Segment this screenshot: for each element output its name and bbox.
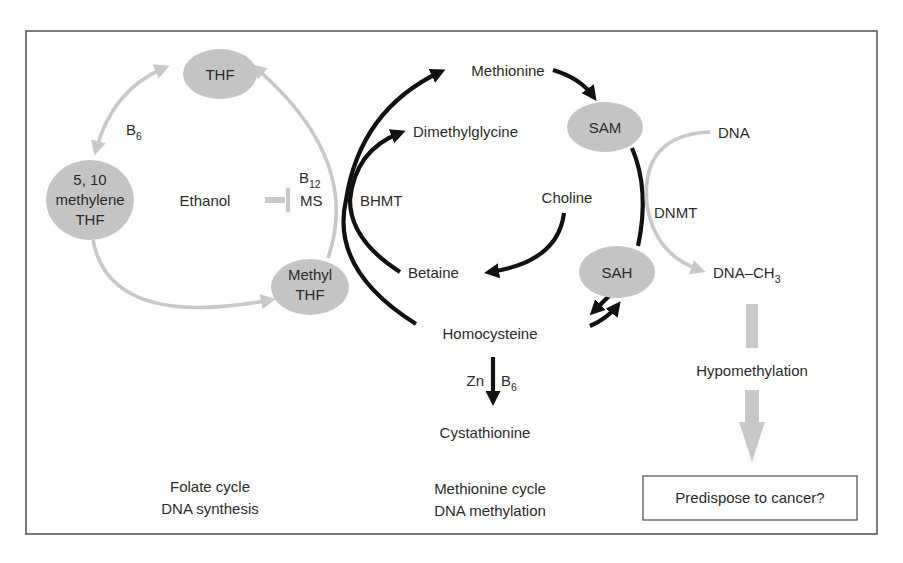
- svg-text:SAM: SAM: [589, 119, 622, 136]
- enzyme-bhmt: BHMT: [360, 192, 403, 209]
- methionine-caption-line1: Methionine cycle: [434, 480, 546, 497]
- svg-text:Predispose to cancer?: Predispose to cancer?: [675, 489, 824, 506]
- node-methylene-thf: 5, 10 methylene THF: [46, 160, 134, 240]
- label-hypomethylation: Hypomethylation: [696, 362, 808, 379]
- cofactor-b6-methionine: B6: [501, 372, 517, 393]
- methionine-to-sam-arrow-icon: [553, 70, 593, 96]
- svg-text:methylene: methylene: [55, 191, 124, 208]
- cofactor-b6-folate: B6: [126, 121, 142, 142]
- svg-text:5, 10: 5, 10: [73, 171, 106, 188]
- choline-to-betaine-arrow-icon: [490, 213, 564, 272]
- inhibitor-ethanol: Ethanol: [180, 192, 231, 209]
- metabolite-betaine: Betaine: [408, 264, 459, 281]
- svg-text:Methyl: Methyl: [288, 266, 332, 283]
- metabolite-methionine: Methionine: [471, 62, 544, 79]
- outcome-arrow-shaft-icon: [745, 390, 759, 424]
- ethanol-inhibition-stem-icon: [265, 197, 285, 203]
- metabolite-dimethylglycine: Dimethylglycine: [413, 123, 518, 140]
- svg-text:THF: THF: [295, 286, 324, 303]
- hypomethylation-bar-icon: [746, 304, 758, 348]
- cofactor-b12: B12: [299, 169, 321, 190]
- one-carbon-metabolism-diagram: THF 5, 10 methylene THF Methyl THF B6 B1…: [0, 0, 903, 563]
- node-sah: SAH: [579, 246, 655, 298]
- label-dna-ch3: DNA–CH3: [713, 264, 781, 285]
- cofactor-zn: Zn: [466, 372, 484, 389]
- outcome-arrow-head-icon: [739, 422, 765, 462]
- node-thf: THF: [183, 49, 257, 99]
- metabolite-cystathionine: Cystathionine: [440, 424, 531, 441]
- diagram-frame: [26, 31, 877, 534]
- svg-text:THF: THF: [75, 211, 104, 228]
- svg-text:SAH: SAH: [602, 264, 633, 281]
- dna-to-dna-ch3-arrow-icon: [646, 132, 710, 270]
- methyl-to-thf-arrow-icon: [256, 68, 336, 258]
- folate-cycle: THF 5, 10 methylene THF Methyl THF B6 B1…: [46, 49, 349, 517]
- methionine-cycle: SAM SAH Methionine Dimethylglycine Choli…: [343, 62, 655, 519]
- outcome-box: Predispose to cancer?: [643, 476, 857, 520]
- node-sam: SAM: [567, 102, 643, 152]
- enzyme-dnmt: DNMT: [654, 204, 697, 221]
- methionine-caption-line2: DNA methylation: [434, 502, 546, 519]
- label-dna: DNA: [718, 124, 750, 141]
- node-methyl-thf: Methyl THF: [271, 259, 349, 315]
- metabolite-homocysteine: Homocysteine: [442, 325, 537, 342]
- metabolite-choline: Choline: [542, 189, 593, 206]
- sam-to-sah-line-icon: [632, 148, 643, 246]
- methylene-to-methyl-arrow-icon: [93, 240, 270, 308]
- folate-caption-line1: Folate cycle: [170, 478, 250, 495]
- enzyme-ms: MS: [300, 192, 323, 209]
- dna-methylation: DNA DNMT DNA–CH3 Hypomethylation Predisp…: [643, 124, 857, 520]
- ethanol-inhibition-bar-icon: [286, 188, 290, 212]
- folate-caption-line2: DNA synthesis: [161, 500, 259, 517]
- svg-text:THF: THF: [205, 66, 234, 83]
